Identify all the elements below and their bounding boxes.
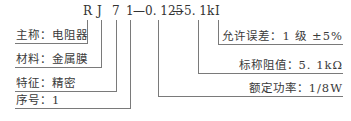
label-material: 材料：金属膜 bbox=[16, 53, 88, 66]
code-part-j: J bbox=[97, 4, 102, 18]
resistor-code-diagram: R J 7 1 —0. 125 —5. 1k I 主称：电阻器 材料：金属膜 特… bbox=[0, 0, 351, 121]
code-part-7: 7 bbox=[112, 4, 120, 18]
code-part-r: R bbox=[83, 4, 92, 18]
code-part-tolerance: I bbox=[215, 4, 220, 18]
label-feature: 特征：精密 bbox=[16, 77, 76, 90]
label-resistance: 标称阻值：5. 1kΩ bbox=[239, 59, 343, 72]
label-name: 主称：电阻器 bbox=[16, 29, 88, 42]
code-part-resistance: —5. 1k bbox=[172, 4, 214, 18]
label-serial: 序号：1 bbox=[16, 94, 60, 107]
label-power: 额定功率：1/8W bbox=[249, 82, 343, 95]
label-tolerance: 允许误差：1 级 ±5% bbox=[222, 30, 343, 43]
